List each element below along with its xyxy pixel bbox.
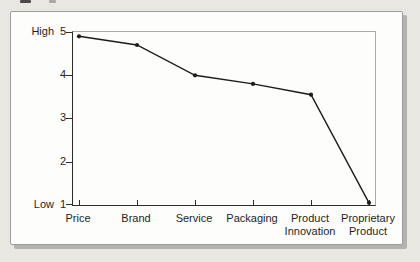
data-point-marker bbox=[135, 43, 139, 47]
data-point-marker bbox=[193, 73, 197, 77]
plot-area bbox=[72, 31, 376, 206]
y-axis-tick-label: 1 bbox=[54, 198, 66, 210]
data-point-marker bbox=[367, 201, 371, 205]
y-axis-tick-label: 5 bbox=[54, 25, 66, 37]
y-axis-tick bbox=[66, 118, 72, 119]
y-axis-low-label: Low bbox=[24, 198, 54, 210]
y-axis-tick-label: 2 bbox=[54, 155, 66, 167]
y-axis-high-label: High bbox=[24, 25, 54, 37]
y-axis-tick-label: 3 bbox=[54, 111, 66, 123]
y-axis-tick-label: 4 bbox=[54, 68, 66, 80]
cropped-text-fragment bbox=[20, 0, 31, 3]
y-axis-tick bbox=[66, 75, 72, 76]
series-line bbox=[79, 36, 369, 203]
y-axis-tick bbox=[66, 204, 72, 205]
category-label: Proprietary Product bbox=[333, 212, 403, 237]
data-point-marker bbox=[77, 34, 81, 38]
page-background: { "figure": { "y_axis": { "high": "High"… bbox=[0, 0, 420, 262]
figure-frame: High Low 5 4 3 2 1 Importance of each cr… bbox=[10, 11, 403, 245]
cropped-text-fragment bbox=[49, 0, 56, 3]
line-series bbox=[73, 32, 375, 205]
data-point-marker bbox=[251, 82, 255, 86]
y-axis-tick bbox=[66, 162, 72, 163]
y-axis-tick bbox=[66, 32, 72, 33]
data-point-marker bbox=[309, 93, 313, 97]
